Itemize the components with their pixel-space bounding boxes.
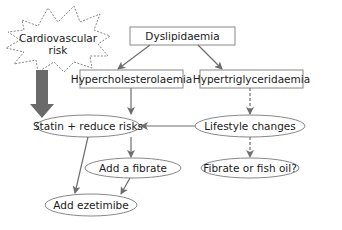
edge-statin-add-ezetimibe xyxy=(75,137,88,193)
add-fibrate-label: Add a fibrate xyxy=(99,162,167,174)
cv-risk-label-line2: risk xyxy=(49,44,69,56)
dyslipidaemia-label: Dyslipidaemia xyxy=(145,30,219,42)
add-ezetimibe-node: Add ezetimibe xyxy=(45,194,137,216)
lifestyle-label: Lifestyle changes xyxy=(204,120,296,132)
hypercholesterolaemia-label: Hypercholesterolaemia xyxy=(71,73,193,85)
flowchart: Cardiovascular risk Dyslipidaemia Hyperc… xyxy=(0,0,342,230)
dyslipidaemia-node: Dyslipidaemia xyxy=(130,27,235,45)
add-ezetimibe-label: Add ezetimibe xyxy=(53,199,128,211)
hypercholesterolaemia-node: Hypercholesterolaemia xyxy=(71,70,193,88)
statin-label: Statin + reduce risks xyxy=(33,120,143,132)
edge-dyslipidaemia-hypertriglyceridaemia xyxy=(198,45,222,69)
fibrate-fish-oil-node: Fibrate or fish oil? xyxy=(201,158,299,178)
thick-arrow xyxy=(30,70,54,118)
edge-dyslipidaemia-hypercholesterolaemia xyxy=(118,45,150,69)
fibrate-fish-oil-label: Fibrate or fish oil? xyxy=(203,162,297,174)
statin-node: Statin + reduce risks xyxy=(33,115,143,137)
edge-add-fibrate-add-ezetimibe xyxy=(121,178,130,194)
cardiovascular-risk-node: Cardiovascular risk xyxy=(6,6,110,72)
hypertriglyceridaemia-label: Hypertriglyceridaemia xyxy=(193,73,310,85)
cv-risk-label-line1: Cardiovascular xyxy=(19,32,98,44)
lifestyle-node: Lifestyle changes xyxy=(195,115,305,137)
hypertriglyceridaemia-node: Hypertriglyceridaemia xyxy=(193,70,310,88)
add-fibrate-node: Add a fibrate xyxy=(85,158,181,178)
